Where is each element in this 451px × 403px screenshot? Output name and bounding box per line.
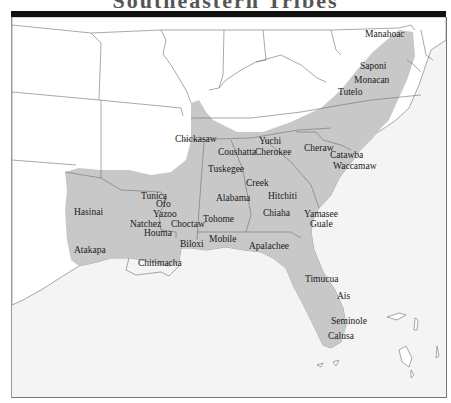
tribe-label-hasinai: Hasinai: [74, 208, 103, 218]
tribe-label-calusa: Calusa: [328, 332, 354, 342]
tribe-label-atakapa: Atakapa: [74, 246, 106, 256]
tribe-label-guale: Guale: [310, 220, 333, 230]
tribe-label-chitimacha: Chitimacha: [138, 259, 182, 269]
tribe-label-hitchiti: Hitchiti: [268, 192, 297, 202]
tribe-label-cherokee: Cherokee: [255, 148, 291, 158]
tribe-label-apalachee: Apalachee: [249, 242, 289, 252]
tribe-label-houma: Houma: [144, 229, 172, 239]
tribe-label-choctaw: Choctaw: [171, 220, 205, 230]
tribe-label-alabama: Alabama: [216, 194, 250, 204]
tribe-label-ais: Ais: [337, 292, 350, 302]
tribe-label-mobile: Mobile: [209, 235, 236, 245]
tribe-label-manahoac: Manahoac: [365, 30, 405, 40]
tribe-label-monacan: Monacan: [354, 76, 389, 86]
tribe-label-tohome: Tohome: [203, 215, 234, 225]
map-title: Southeastern Tribes: [0, 0, 451, 10]
tribe-label-chickasaw: Chickasaw: [175, 135, 217, 145]
tribe-label-creek: Creek: [246, 179, 269, 189]
tribe-label-chiaha: Chiaha: [263, 209, 290, 219]
tribe-label-tutelo: Tutelo: [338, 88, 362, 98]
tribe-label-timucua: Timucua: [305, 275, 338, 285]
tribe-label-catawba: Catawba: [330, 151, 363, 161]
map-title-text: Southeastern Tribes: [112, 0, 338, 10]
tribe-label-saponi: Saponi: [360, 62, 386, 72]
tribe-label-waccamaw: Waccamaw: [333, 162, 377, 172]
tribe-label-tuskegee: Tuskegee: [208, 165, 244, 175]
tribe-label-seminole: Seminole: [331, 317, 367, 327]
tribe-label-biloxi: Biloxi: [180, 240, 204, 250]
tribe-label-coushatta: Coushatta: [218, 148, 256, 158]
map-frame: Manahoac Saponi Monacan Tutelo Yuchi Che…: [11, 17, 447, 398]
tribe-label-yuchi: Yuchi: [259, 137, 281, 147]
